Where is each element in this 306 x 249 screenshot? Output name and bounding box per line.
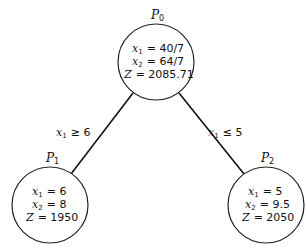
node-p2: P2 x1= 5 x2= 9.5 Z= 2050 — [228, 151, 304, 243]
node-p1-line3: Z= 1950 — [25, 211, 78, 224]
node-p1-line1: x1= 6 — [32, 185, 66, 199]
edge-label-p0-p2: x1≤ 5 — [208, 126, 242, 140]
node-p2-title: P2 — [260, 151, 274, 166]
node-p0-title: P0 — [150, 8, 164, 23]
node-p1-line2: x2= 8 — [32, 198, 66, 212]
edge-label-p0-p1: x1≥ 6 — [56, 126, 90, 140]
node-p2-line1: x1= 5 — [248, 185, 282, 199]
node-p2-line3: Z= 2050 — [241, 211, 294, 224]
branch-and-bound-tree: x1≥ 6 x1≤ 5 P0 x1= 40/7 x2= 64/7 Z= 2085… — [0, 0, 306, 249]
node-p1: P1 x1= 6 x2= 8 Z= 1950 — [12, 151, 88, 243]
node-p1-title: P1 — [45, 151, 59, 166]
node-p0: P0 x1= 40/7 x2= 64/7 Z= 2085.71 — [118, 8, 194, 100]
